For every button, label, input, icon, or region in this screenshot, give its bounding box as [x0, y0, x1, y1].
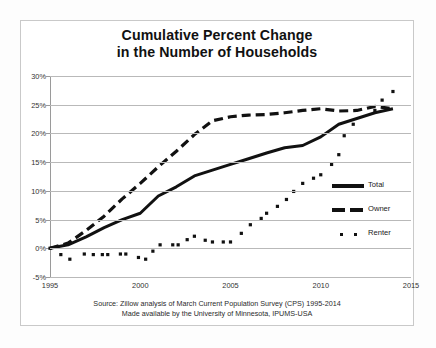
- y-tick-label: 0%: [20, 244, 46, 253]
- series-point-renter: [265, 212, 268, 215]
- legend-label: Total: [368, 180, 384, 189]
- series-point-renter: [204, 239, 207, 242]
- series-point-renter: [193, 235, 196, 238]
- series-point-renter: [381, 99, 384, 102]
- series-point-renter: [171, 243, 174, 246]
- y-tick-label: 25%: [20, 101, 46, 110]
- gridline-y-20%: [50, 133, 411, 134]
- chart-title: Cumulative Percent Change in the Number …: [20, 27, 414, 61]
- series-point-renter: [124, 252, 127, 255]
- series-point-renter: [373, 109, 376, 112]
- legend-item-renter[interactable]: Renter: [332, 228, 414, 240]
- x-tick-label: 1995: [42, 281, 58, 290]
- series-point-renter: [101, 253, 104, 256]
- source-line-1: Source: Zillow analysis of March Current…: [20, 299, 414, 309]
- source-line-2: Made available by the University of Minn…: [20, 309, 414, 319]
- y-tick-label: 5%: [20, 216, 46, 225]
- chart-legend: TotalOwnerRenter: [332, 180, 414, 242]
- series-point-renter: [106, 253, 109, 256]
- chart-figure: Cumulative Percent Change in the Number …: [0, 0, 436, 348]
- series-point-renter: [343, 134, 346, 137]
- series-point-renter: [92, 253, 95, 256]
- chart-title-line-2: in the Number of Households: [20, 44, 414, 61]
- series-point-renter: [159, 243, 162, 246]
- series-point-renter: [137, 256, 140, 259]
- series-point-renter: [59, 253, 62, 256]
- series-point-renter: [119, 252, 122, 255]
- series-point-renter: [276, 205, 279, 208]
- x-axis-labels: 19952000200520102015: [50, 281, 411, 295]
- series-point-renter: [301, 182, 304, 185]
- y-tick-label: 20%: [20, 129, 46, 138]
- legend-item-owner[interactable]: Owner: [332, 204, 414, 216]
- series-point-renter: [144, 258, 147, 261]
- series-point-renter: [222, 240, 225, 243]
- series-point-renter: [211, 240, 214, 243]
- x-tick-label: 2000: [132, 281, 148, 290]
- series-point-renter: [330, 163, 333, 166]
- series-point-renter: [240, 232, 243, 235]
- gridline-y-15%: [50, 162, 411, 163]
- x-tick-label: 2015: [403, 281, 419, 290]
- series-point-renter: [391, 90, 394, 93]
- y-tick-label: 15%: [20, 158, 46, 167]
- gridline-y-25%: [50, 105, 411, 106]
- x-tick-label: 2010: [313, 281, 329, 290]
- x-tick-label: 2005: [222, 281, 238, 290]
- series-point-renter: [68, 258, 71, 261]
- series-point-renter: [186, 238, 189, 241]
- series-point-renter: [151, 250, 154, 253]
- legend-item-total[interactable]: Total: [332, 180, 414, 192]
- source-note: Source: Zillow analysis of March Current…: [20, 299, 414, 320]
- series-point-renter: [177, 243, 180, 246]
- series-point-renter: [337, 153, 340, 156]
- series-point-renter: [312, 177, 315, 180]
- series-point-renter: [83, 252, 86, 255]
- legend-swatch-solid-icon: [332, 184, 364, 188]
- chart-title-line-1: Cumulative Percent Change: [20, 27, 414, 44]
- plot-area: [50, 76, 411, 277]
- series-layer: [50, 76, 411, 277]
- series-point-renter: [249, 223, 252, 226]
- y-tick-label: 30%: [20, 72, 46, 81]
- legend-swatch-dashed-icon: [332, 208, 345, 212]
- series-point-renter: [229, 240, 232, 243]
- legend-label: Owner: [368, 204, 390, 213]
- gridline-y-0%: [50, 248, 411, 249]
- legend-swatch-dashed-icon: [350, 208, 363, 212]
- legend-swatch-dotted-icon: [340, 233, 343, 236]
- legend-label: Renter: [368, 228, 391, 237]
- series-point-renter: [285, 198, 288, 201]
- y-tick-label: 10%: [20, 187, 46, 196]
- legend-swatch-dotted-icon: [354, 233, 357, 236]
- series-point-renter: [319, 173, 322, 176]
- gridline-y--5%: [50, 277, 411, 278]
- y-axis-labels: -5%0%5%10%15%20%25%30%: [16, 76, 46, 277]
- gridline-y-30%: [50, 76, 411, 77]
- series-point-renter: [352, 123, 355, 126]
